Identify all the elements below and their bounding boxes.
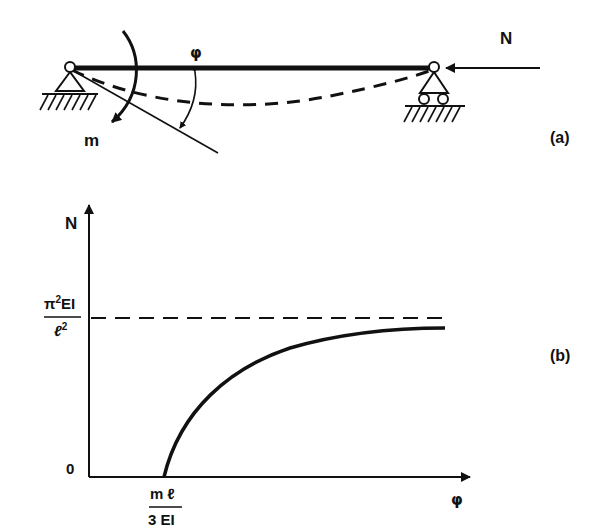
- axial-force-label-visible: N: [500, 29, 512, 48]
- origin-label: 0: [66, 460, 74, 477]
- svg-text:3 EI: 3 EI: [148, 511, 175, 528]
- svg-text:m ℓ: m ℓ: [150, 485, 175, 502]
- hinge-right: [429, 62, 439, 72]
- x-intercept-label: m ℓ 3 EI: [148, 485, 182, 528]
- x-axis-label: φ: [451, 491, 463, 509]
- svg-text:ℓ2: ℓ2: [54, 321, 68, 339]
- panel-b: N φ 0 π2EI ℓ2 m ℓ 3 EI (b): [44, 205, 570, 528]
- panel-a: N N m φ (a): [40, 29, 570, 153]
- hinge-left: [65, 62, 75, 72]
- roller-support-right: [404, 62, 465, 122]
- y-axis-label: N: [65, 214, 77, 233]
- euler-load-label: π2EI ℓ2: [44, 294, 81, 339]
- deflected-shape: [72, 70, 432, 105]
- svg-text:π2EI: π2EI: [44, 294, 75, 312]
- figure: N N m φ (a) N φ 0 π2EI ℓ2: [0, 0, 593, 529]
- moment-label: m: [84, 131, 99, 150]
- panel-a-label: (a): [550, 129, 570, 146]
- rotation-label: φ: [190, 44, 202, 62]
- n-phi-curve: [164, 328, 445, 477]
- panel-b-label: (b): [550, 347, 570, 364]
- moment-arrow: [112, 31, 136, 122]
